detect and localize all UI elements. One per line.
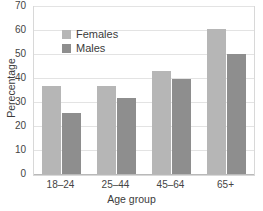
bar-males <box>117 98 136 175</box>
legend-item-males: Males <box>62 42 118 54</box>
bar-chart: 010203040506070 Perecentage Females Male… <box>0 0 263 211</box>
x-axis-tick-label: 18–24 <box>31 179 91 190</box>
bar-females <box>152 71 171 175</box>
x-axis-title: Age group <box>0 193 263 205</box>
legend-swatch-females-icon <box>62 30 71 39</box>
bar-females <box>207 29 226 175</box>
x-axis-baseline <box>34 174 254 175</box>
bar-males <box>62 113 81 175</box>
y-axis-title-wrapper: Perecentage <box>4 0 18 176</box>
x-axis-tick-label: 25–44 <box>86 179 146 190</box>
bar-males <box>172 79 191 175</box>
y-axis-title: Perecentage <box>5 33 17 143</box>
x-axis-tick-label: 65+ <box>196 179 256 190</box>
bar-males <box>227 54 246 175</box>
legend-label-females: Females <box>76 29 118 40</box>
bar-females <box>97 86 116 175</box>
x-axis-tick-label: 45–64 <box>141 179 201 190</box>
legend-label-males: Males <box>76 43 105 54</box>
legend-item-females: Females <box>62 28 118 40</box>
legend-swatch-males-icon <box>62 44 71 53</box>
bar-females <box>42 86 61 175</box>
gridline <box>34 6 254 7</box>
chart-legend: Females Males <box>62 28 118 54</box>
x-axis-ticks: 18–2425–4445–6465+ <box>33 179 255 193</box>
